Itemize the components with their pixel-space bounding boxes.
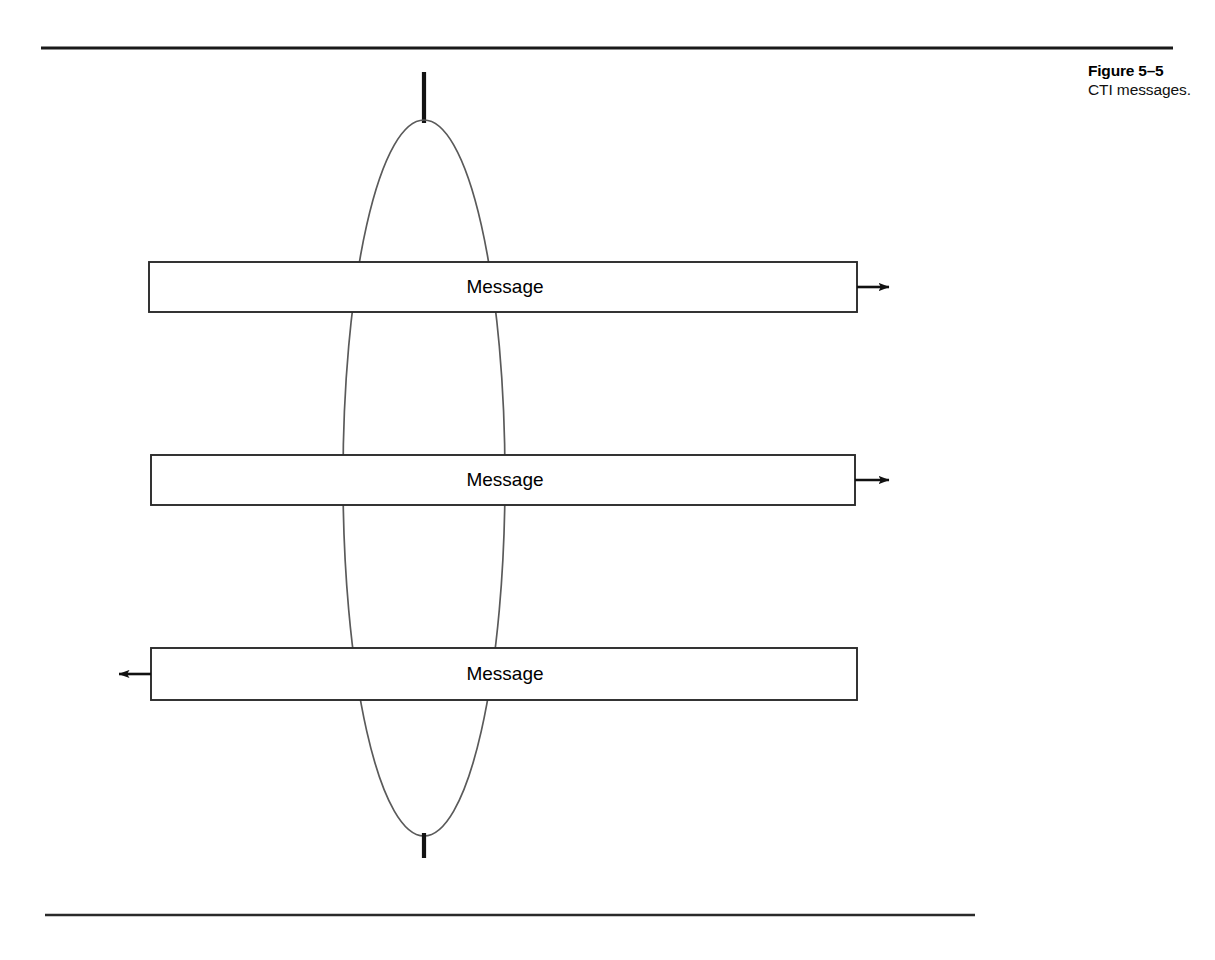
- message-bar-1: Message: [149, 262, 889, 312]
- cti-messages-diagram: Message Message Message: [0, 0, 1215, 960]
- message-label-2: Message: [466, 469, 543, 490]
- message-bar-2: Message: [151, 455, 889, 505]
- figure-caption: Figure 5–5 CTI messages.: [1088, 62, 1213, 100]
- figure-caption-title: Figure 5–5: [1088, 62, 1213, 80]
- figure-page: Message Message Message Figure 5–5 CTI m…: [0, 0, 1215, 960]
- message-label-1: Message: [466, 276, 543, 297]
- message-label-3: Message: [466, 663, 543, 684]
- message-bar-3: Message: [119, 648, 857, 700]
- figure-caption-text: CTI messages.: [1088, 81, 1213, 99]
